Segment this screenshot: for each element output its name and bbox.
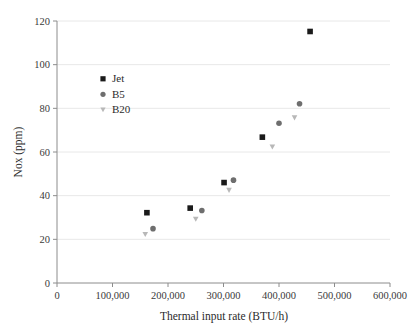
chart-background [0, 0, 419, 331]
y-tick-label: 80 [40, 103, 51, 114]
x-tick-label: 200,000 [151, 290, 185, 301]
legend-marker-b5 [100, 92, 105, 97]
legend-label-jet: Jet [112, 72, 124, 84]
data-point-b5 [150, 226, 156, 232]
x-tick-label: 400,000 [262, 290, 296, 301]
data-point-b5 [276, 120, 282, 126]
data-point-b5 [297, 101, 303, 107]
x-tick-label: 600,000 [373, 290, 407, 301]
chart-canvas: 020406080100120 0100,000200,000300,00040… [0, 0, 419, 331]
data-point-jet [260, 134, 266, 140]
x-tick-label: 100,000 [95, 290, 129, 301]
legend-label-b20: B20 [112, 103, 131, 115]
legend-label-b5: B5 [112, 88, 125, 100]
y-axis-title: Nox (ppm) [12, 126, 25, 177]
data-point-jet [144, 210, 150, 216]
y-tick-label: 60 [40, 147, 51, 158]
x-tick-label: 500,000 [317, 290, 351, 301]
x-axis-title: Thermal input rate (BTU/h) [160, 310, 288, 323]
scatter-chart: 020406080100120 0100,000200,000300,00040… [0, 0, 419, 331]
data-point-jet [307, 29, 313, 35]
y-tick-label: 0 [45, 278, 50, 289]
x-tick-label: 0 [54, 290, 59, 301]
data-point-b5 [199, 208, 205, 214]
x-tick-label: 300,000 [206, 290, 240, 301]
y-tick-label: 100 [34, 59, 50, 70]
y-tick-label: 120 [34, 16, 50, 27]
y-tick-label: 40 [40, 190, 51, 201]
data-point-jet [187, 205, 193, 211]
y-tick-label: 20 [40, 234, 51, 245]
legend-marker-jet [100, 76, 105, 81]
data-point-jet [221, 180, 227, 186]
data-point-b5 [231, 177, 237, 183]
